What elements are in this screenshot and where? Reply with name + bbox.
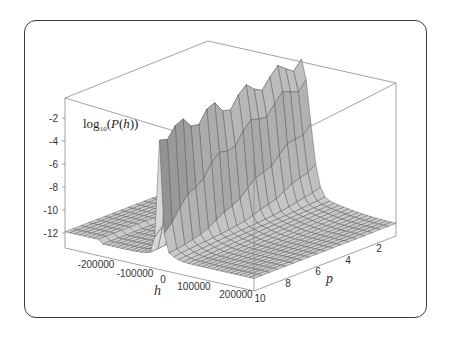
z-tick-label: -6	[49, 159, 58, 170]
surface-mesh	[65, 59, 396, 278]
p-axis-label: p	[325, 271, 333, 286]
z-tick-label: -10	[44, 205, 59, 216]
h-tick-label: 100000	[177, 281, 211, 292]
surface-plot: -2-4-6-8-10-12 -200000-10000001000002000…	[0, 0, 451, 338]
p-tick-label: 6	[315, 266, 321, 277]
p-tick-label: 4	[345, 255, 351, 266]
z-tick-label: -4	[49, 136, 58, 147]
z-axis-ticks: -2-4-6-8-10-12	[44, 113, 65, 239]
h-tick-label: 0	[160, 274, 166, 285]
h-tick-label: -200000	[78, 259, 115, 270]
z-tick-label: -8	[49, 182, 58, 193]
h-tick-label: -100000	[117, 268, 154, 279]
z-tick-label: -12	[44, 228, 59, 239]
p-tick-label: 8	[285, 278, 291, 289]
p-tick-label: 10	[254, 293, 266, 304]
p-tick-label: 2	[376, 243, 382, 254]
z-tick-label: -2	[49, 113, 58, 124]
h-tick-label: 200000	[219, 289, 253, 300]
h-axis-label: h	[154, 283, 161, 298]
z-axis-label: log10(P(h))	[83, 116, 138, 133]
